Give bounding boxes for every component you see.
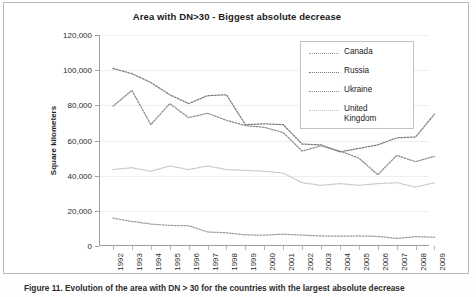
x-axis-tick-label: 2006: [381, 253, 390, 271]
x-axis-tick: [416, 246, 417, 250]
x-axis-tick: [151, 246, 152, 250]
x-axis-tick-label: 1996: [192, 253, 201, 271]
x-axis-tick-label: 1999: [249, 253, 258, 271]
y-axis-title-text: Square kilometers: [50, 106, 59, 175]
series-line-united-kingdom: [113, 166, 434, 187]
legend-item-canada[interactable]: Canada: [301, 47, 413, 66]
x-axis-tick-label: 2001: [287, 253, 296, 271]
x-axis-tick: [340, 246, 341, 250]
x-axis-tick: [397, 246, 398, 250]
x-axis-tick: [283, 246, 284, 250]
series-line-canada: [113, 218, 434, 238]
y-axis-title: Square kilometers: [48, 35, 60, 246]
y-axis-tick-label: 100,000: [63, 66, 92, 75]
figure-caption: Figure 11. Evolution of the area with DN…: [24, 283, 454, 296]
legend-label: UnitedKingdom: [344, 104, 376, 123]
y-axis-tick-label: 120,000: [63, 31, 92, 40]
x-axis-tick: [132, 246, 133, 250]
x-axis-tick: [245, 246, 246, 250]
legend-label: Ukraine: [344, 85, 372, 95]
x-axis-tick: [434, 246, 435, 250]
legend-item-united-kingdom[interactable]: UnitedKingdom: [301, 104, 413, 123]
x-axis-tick-label: 1993: [135, 253, 144, 271]
chart-title: Area with DN>30 - Biggest absolute decre…: [4, 11, 470, 22]
legend-swatch: [309, 53, 339, 54]
x-axis-tick-label: 1995: [173, 253, 182, 271]
legend-item-ukraine[interactable]: Ukraine: [301, 85, 413, 104]
x-axis-tick-label: 1992: [116, 253, 125, 271]
legend-swatch: [309, 110, 339, 111]
legend-label: Russia: [344, 66, 369, 76]
x-axis-tick-label: 1998: [230, 253, 239, 271]
figure-page: Area with DN>30 - Biggest absolute decre…: [0, 0, 476, 297]
y-axis-tick-label: 20,000: [68, 206, 92, 215]
x-axis-tick: [113, 246, 114, 250]
x-axis-tick: [321, 246, 322, 250]
x-axis-tick: [208, 246, 209, 250]
legend-item-russia[interactable]: Russia: [301, 66, 413, 85]
x-axis-tick-label: 2005: [362, 253, 371, 271]
x-axis-tick: [264, 246, 265, 250]
y-axis-tick-label: 60,000: [68, 136, 92, 145]
x-axis-tick-label: 2008: [419, 253, 428, 271]
figure-frame: Area with DN>30 - Biggest absolute decre…: [3, 2, 469, 274]
legend-swatch: [309, 72, 339, 73]
x-axis-tick: [226, 246, 227, 250]
x-axis-tick-label: 2002: [306, 253, 315, 271]
x-axis-tick-label: 2004: [343, 253, 352, 271]
x-axis-tick-label: 1994: [154, 253, 163, 271]
y-axis-tick: [95, 246, 99, 247]
y-axis-tick-label: 80,000: [68, 101, 92, 110]
x-axis-tick: [170, 246, 171, 250]
x-axis-tick: [189, 246, 190, 250]
x-axis-tick: [359, 246, 360, 250]
x-axis-tick-label: 2009: [438, 253, 447, 271]
y-axis-tick-label: 40,000: [68, 171, 92, 180]
x-axis-tick-label: 2007: [400, 253, 409, 271]
x-axis-tick-label: 1997: [211, 253, 220, 271]
legend-label: Canada: [344, 47, 373, 57]
chart-legend: CanadaRussiaUkraineUnitedKingdom: [300, 41, 414, 129]
x-axis-tick: [302, 246, 303, 250]
legend-swatch: [309, 91, 339, 92]
x-axis-tick-label: 2000: [268, 253, 277, 271]
x-axis-tick: [378, 246, 379, 250]
x-axis-tick-label: 2003: [324, 253, 333, 271]
y-axis-tick-label: 0: [88, 242, 92, 251]
